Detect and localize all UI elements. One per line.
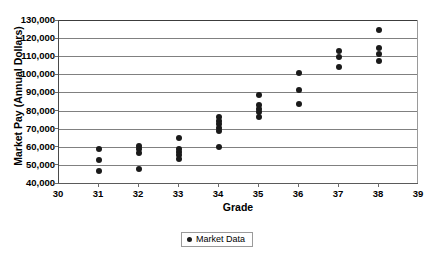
gridline: [59, 56, 417, 57]
data-point: [176, 156, 182, 162]
y-axis-tick: [54, 92, 58, 93]
gridline: [59, 111, 417, 112]
y-axis-tick-label: 80,000: [3, 106, 55, 116]
x-axis-tick-label: 31: [83, 188, 113, 199]
data-point: [176, 135, 182, 141]
x-axis-tick-label: 39: [403, 188, 433, 199]
data-point: [336, 54, 342, 60]
data-point: [96, 168, 102, 174]
y-axis-tick-label: 110,000: [3, 51, 55, 61]
data-point: [376, 27, 382, 33]
data-point: [296, 70, 302, 76]
y-axis-tick-label: 60,000: [3, 142, 55, 152]
y-axis-tick-label: 40,000: [3, 178, 55, 188]
y-axis-tick: [54, 146, 58, 147]
y-axis-tick-label: 90,000: [3, 87, 55, 97]
y-axis-tick: [54, 56, 58, 57]
x-axis-tick: [138, 183, 139, 187]
x-axis-tick-label: 37: [323, 188, 353, 199]
y-axis-tick: [54, 38, 58, 39]
filled-circle-marker-icon: [187, 237, 192, 242]
data-point: [256, 92, 262, 98]
legend-entry-label: Market Data: [196, 234, 245, 245]
scatter-chart: Market Pay (Annual Dollars) 40,00050,000…: [0, 0, 434, 260]
y-axis-tick: [54, 20, 58, 21]
x-axis-tick-label: 34: [203, 188, 233, 199]
chart-legend: Market Data: [181, 232, 253, 247]
data-point: [216, 128, 222, 134]
x-axis-title: Grade: [58, 201, 418, 213]
data-point: [216, 144, 222, 150]
y-axis-tick: [54, 74, 58, 75]
data-point: [136, 166, 142, 172]
data-point: [136, 150, 142, 156]
data-point: [336, 64, 342, 70]
gridline: [59, 129, 417, 130]
data-point: [296, 101, 302, 107]
x-axis-line: [58, 183, 418, 184]
gridline: [59, 92, 417, 93]
gridline: [59, 20, 417, 21]
x-axis-tick-label: 36: [283, 188, 313, 199]
x-axis-tick: [258, 183, 259, 187]
y-axis-tick-label: 100,000: [3, 69, 55, 79]
data-point: [296, 87, 302, 93]
data-point: [256, 114, 262, 120]
gridline: [59, 147, 417, 148]
x-axis-tick-label: 30: [43, 188, 73, 199]
x-axis-tick: [298, 183, 299, 187]
y-axis-tick-labels: 40,00050,00060,00070,00080,00090,000100,…: [0, 0, 55, 260]
x-axis-tick-label: 33: [163, 188, 193, 199]
x-axis-tick-label: 38: [363, 188, 393, 199]
x-axis-tick: [98, 183, 99, 187]
data-point: [376, 58, 382, 64]
plot-area: [58, 20, 418, 183]
y-axis-tick: [54, 110, 58, 111]
data-point: [336, 48, 342, 54]
gridline: [59, 165, 417, 166]
x-axis-tick: [378, 183, 379, 187]
x-axis-tick: [338, 183, 339, 187]
y-axis-tick: [54, 183, 58, 184]
gridline: [59, 38, 417, 39]
x-axis-tick: [178, 183, 179, 187]
y-axis-tick: [54, 128, 58, 129]
data-point: [96, 157, 102, 163]
y-axis-tick: [54, 164, 58, 165]
x-axis-tick: [218, 183, 219, 187]
y-axis-tick-label: 120,000: [3, 33, 55, 43]
y-axis-tick-label: 50,000: [3, 160, 55, 170]
data-point: [376, 51, 382, 57]
gridline: [59, 74, 417, 75]
x-axis-tick-label: 35: [243, 188, 273, 199]
y-axis-tick-label: 130,000: [3, 15, 55, 25]
x-axis-tick-label: 32: [123, 188, 153, 199]
data-point: [96, 146, 102, 152]
y-axis-tick-label: 70,000: [3, 124, 55, 134]
